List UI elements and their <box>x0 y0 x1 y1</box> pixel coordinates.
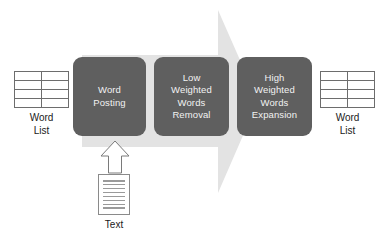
table-cell <box>15 81 42 90</box>
input-text-document: Text <box>98 174 130 231</box>
output-word-list-label: Word List <box>336 111 360 137</box>
table-row <box>15 90 69 99</box>
table-cell <box>42 99 69 108</box>
document-line <box>103 188 125 190</box>
document-line <box>103 192 125 194</box>
output-word-list: Word List <box>320 71 375 137</box>
process-step-label: High Weighted Words Expansion <box>252 72 297 122</box>
table-cell <box>348 90 375 99</box>
process-step-label: Low Weighted Words Removal <box>171 72 212 122</box>
table-row <box>321 90 375 99</box>
table-cell <box>321 90 348 99</box>
input-word-list-label: Word List <box>30 111 54 137</box>
table-row <box>321 72 375 81</box>
table-cell <box>42 81 69 90</box>
process-step-low-weighted-words-removal[interactable]: Low Weighted Words Removal <box>154 57 229 136</box>
table-cell <box>348 72 375 81</box>
input-word-list-table <box>14 71 69 108</box>
table-cell <box>348 81 375 90</box>
document-line <box>103 200 125 202</box>
document-line <box>103 196 125 198</box>
process-step-word-posting[interactable]: Word Posting <box>73 57 146 136</box>
input-text-document-label: Text <box>105 218 123 231</box>
table-row <box>321 99 375 108</box>
document-icon <box>98 174 130 215</box>
table-cell <box>321 72 348 81</box>
document-line <box>103 204 125 206</box>
input-word-list: Word List <box>14 71 69 137</box>
table-row <box>15 99 69 108</box>
diagram-canvas: Word List Word Posting Low Weighted Word… <box>0 0 382 244</box>
output-word-list-table <box>320 71 375 108</box>
table-cell <box>42 90 69 99</box>
document-line <box>103 184 125 186</box>
document-line <box>103 180 125 182</box>
document-line <box>103 207 125 209</box>
process-step-label: Word Posting <box>93 84 125 109</box>
process-step-high-weighted-words-expansion[interactable]: High Weighted Words Expansion <box>237 57 312 136</box>
table-cell <box>15 99 42 108</box>
table-row <box>15 72 69 81</box>
table-cell <box>321 99 348 108</box>
table-cell <box>15 72 42 81</box>
table-row <box>321 81 375 90</box>
table-row <box>15 81 69 90</box>
table-cell <box>348 99 375 108</box>
table-cell <box>15 90 42 99</box>
table-cell <box>321 81 348 90</box>
text-input-arrow <box>100 140 130 174</box>
table-cell <box>42 72 69 81</box>
